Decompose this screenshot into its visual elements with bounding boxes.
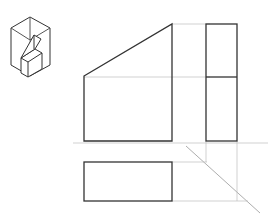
construction-lines xyxy=(73,24,268,213)
isometric-reference xyxy=(11,17,50,77)
front-view xyxy=(84,24,172,141)
projection-drawing xyxy=(0,0,275,217)
side-view xyxy=(206,24,237,141)
top-view xyxy=(84,162,172,201)
